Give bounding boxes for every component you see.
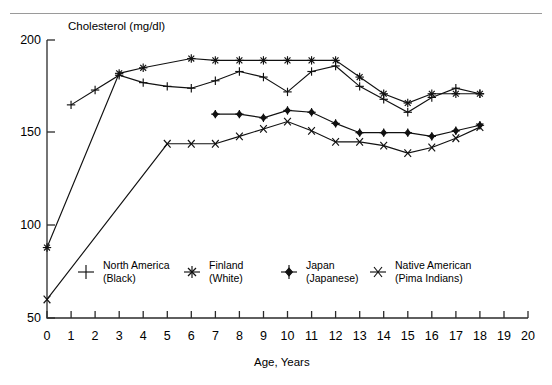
x-tick-label-13: 13 (353, 329, 367, 343)
x-tick-marks (47, 311, 528, 318)
y-tick-label-150: 150 (20, 125, 41, 139)
cross-marker-icon (370, 267, 386, 277)
series-markers (211, 106, 484, 140)
series-japan-japanese (211, 106, 484, 140)
x-tick-label-2: 2 (92, 329, 99, 343)
x-tick-label-0: 0 (44, 329, 51, 343)
series-line (47, 59, 480, 248)
x-tick-label-17: 17 (449, 329, 463, 343)
x-tick-label-18: 18 (473, 329, 487, 343)
x-tick-label-9: 9 (260, 329, 267, 343)
legend-label-line1: Japan (306, 259, 335, 271)
plus-marker-icon (78, 265, 94, 279)
legend-label-line1: Finland (209, 259, 244, 271)
x-tick-label-5: 5 (164, 329, 171, 343)
series-line (215, 110, 480, 136)
y-axis-title: Cholesterol (mg/dl) (68, 20, 165, 32)
x-tick-label-14: 14 (377, 329, 391, 343)
series-finland-white (43, 54, 484, 251)
x-tick-label-7: 7 (212, 329, 219, 343)
x-tick-label-19: 19 (497, 329, 511, 343)
x-tick-label-8: 8 (236, 329, 243, 343)
series-north-america-black (67, 62, 484, 117)
diamond-marker-icon (281, 265, 297, 279)
legend-item-native-american[interactable]: Native American (Pima Indians) (370, 259, 472, 284)
x-tick-label-16: 16 (425, 329, 439, 343)
legend-item-north-america[interactable]: North America (Black) (78, 259, 170, 284)
legend-item-finland[interactable]: Finland (White) (184, 259, 244, 284)
legend-label-line2: (Pima Indians) (395, 272, 463, 284)
x-tick-label-20: 20 (521, 329, 535, 343)
x-tick-label-15: 15 (401, 329, 415, 343)
x-axis-title: Age, Years (254, 356, 310, 368)
x-tick-label-11: 11 (305, 329, 318, 343)
axes-group: 200 150 100 50 0 1 2 3 4 5 6 7 8 9 10 11… (20, 33, 535, 343)
asterisk-marker-icon (184, 266, 200, 278)
y-tick-label-50: 50 (27, 311, 41, 325)
legend-item-japan[interactable]: Japan (Japanese) (281, 259, 359, 284)
x-tick-label-3: 3 (116, 329, 123, 343)
legend-label-line1: Native American (395, 259, 472, 271)
x-tick-label-6: 6 (188, 329, 195, 343)
y-tick-label-200: 200 (20, 33, 41, 47)
legend-label-line2: (Black) (103, 272, 136, 284)
x-tick-label-1: 1 (68, 329, 75, 343)
x-tick-label-10: 10 (281, 329, 295, 343)
legend-label-line2: (Japanese) (306, 272, 359, 284)
x-tick-label-12: 12 (329, 329, 343, 343)
series-line (71, 66, 480, 112)
series-markers (43, 54, 484, 251)
series-markers (67, 62, 484, 117)
legend-label-line2: (White) (209, 272, 243, 284)
chart-canvas: 200 150 100 50 0 1 2 3 4 5 6 7 8 9 10 11… (0, 0, 552, 385)
chart-legend: North America (Black) Finland (White) (78, 259, 472, 284)
cholesterol-by-age-line-chart: 200 150 100 50 0 1 2 3 4 5 6 7 8 9 10 11… (0, 0, 552, 385)
x-tick-label-4: 4 (140, 329, 147, 343)
legend-label-line1: North America (103, 259, 170, 271)
y-tick-marks (47, 40, 55, 318)
y-tick-label-100: 100 (20, 218, 41, 232)
